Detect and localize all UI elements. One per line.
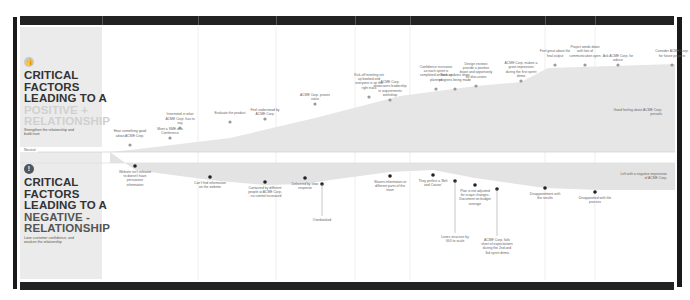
positive-point-label: Consider ACME Corp. for future projects bbox=[655, 49, 689, 57]
positive-point-label: Feel understood by ACME Corp. bbox=[248, 108, 282, 116]
heading-accent: RELATIONSHIP bbox=[24, 223, 110, 235]
heading-line: LEADING TO A bbox=[24, 93, 110, 105]
positive-point bbox=[616, 63, 619, 66]
negative-point-label: Contacted by different people at ACME Co… bbox=[248, 186, 282, 199]
positive-area bbox=[110, 64, 675, 152]
positive-heading: CRITICAL FACTORS LEADING TO A POSITIVE +… bbox=[24, 70, 110, 128]
negative-point-label: Can't find information on the website bbox=[193, 181, 227, 189]
negative-point bbox=[388, 174, 392, 178]
exclamation-icon: ! bbox=[24, 164, 34, 174]
positive-point bbox=[367, 95, 370, 98]
negative-point bbox=[431, 173, 435, 177]
negative-point bbox=[473, 183, 477, 187]
negative-point-label: Delivered by slow response bbox=[288, 182, 322, 190]
positive-point bbox=[313, 102, 316, 105]
positive-point bbox=[583, 63, 586, 66]
negative-point bbox=[303, 176, 307, 180]
negative-point-label: Overbooked bbox=[305, 218, 339, 222]
positive-point bbox=[128, 143, 131, 146]
heading-line: LEADING TO A bbox=[24, 200, 110, 212]
positive-point-label: Design reviews provide a positive boost … bbox=[459, 62, 493, 79]
positive-point-label: Evaluate the product bbox=[213, 111, 247, 115]
positive-point-label: Ask ACME Corp. for advice bbox=[601, 54, 635, 62]
positive-point-label: ACME Corp. makes a great impression duri… bbox=[504, 61, 538, 78]
negative-point-label: Shares information at different parts of… bbox=[373, 180, 407, 193]
positive-point bbox=[670, 63, 673, 66]
thumbs-up-icon: 👍 bbox=[24, 57, 34, 67]
positive-subtitle: Strengthen the relationship and build tr… bbox=[24, 128, 74, 137]
positive-point-label: Feel great about the final output bbox=[538, 49, 572, 57]
negative-point-label: They perfect a 'Belt and Cousin' bbox=[416, 179, 450, 187]
negative-subtitle: Lose customer confidence, and weaken the… bbox=[24, 236, 82, 245]
negative-point bbox=[133, 164, 137, 168]
positive-point bbox=[434, 87, 437, 90]
positive-point bbox=[519, 79, 522, 82]
negative-point-label: ACME Corp. falls short of expectations d… bbox=[480, 238, 514, 255]
heading-line: CRITICAL bbox=[24, 177, 110, 189]
negative-point bbox=[208, 175, 212, 179]
positive-point-label: Hear something good about ACME Corp. bbox=[113, 129, 147, 137]
negative-point-label: Disappointment with the results bbox=[528, 192, 562, 200]
positive-point bbox=[263, 117, 266, 120]
negative-point bbox=[593, 190, 597, 194]
positive-point-label: ACME Corp. proves value bbox=[298, 93, 332, 101]
negative-point-label: Disappointed with the process bbox=[578, 196, 612, 204]
positive-point bbox=[168, 136, 171, 139]
heading-accent: RELATIONSHIP bbox=[24, 116, 110, 128]
positive-end-note: Good feeling about ACME Corp. prevails bbox=[612, 108, 662, 116]
negative-end-note: Left with a negative impression of ACME … bbox=[617, 172, 667, 180]
positive-point bbox=[228, 120, 231, 123]
positive-point bbox=[474, 84, 477, 87]
positive-point bbox=[453, 87, 456, 90]
negative-point-label: Website isn't relevant to doesn't have p… bbox=[118, 170, 152, 187]
negative-point-label: Plan is not adjusted for scope changes. … bbox=[458, 189, 492, 206]
negative-point bbox=[263, 180, 267, 184]
negative-heading: CRITICAL FACTORS LEADING TO A NEGATIVE -… bbox=[24, 177, 110, 235]
positive-point-label: Meet a SME at a Conference bbox=[153, 127, 187, 135]
positive-point-label: Project winds down with lots of communic… bbox=[568, 45, 602, 58]
neutral-label: Neutral bbox=[24, 148, 36, 152]
positive-point-label: Interested in what ACME Corp. has to say bbox=[163, 112, 197, 125]
positive-point bbox=[388, 98, 391, 101]
positive-point-label: ACME Corp. showcases leadership in requi… bbox=[373, 80, 407, 97]
heading-line: CRITICAL bbox=[24, 70, 110, 82]
positive-point bbox=[553, 63, 556, 66]
negative-point bbox=[543, 186, 547, 190]
negative-point-label: Loses structure by GUI to scale bbox=[438, 235, 472, 243]
